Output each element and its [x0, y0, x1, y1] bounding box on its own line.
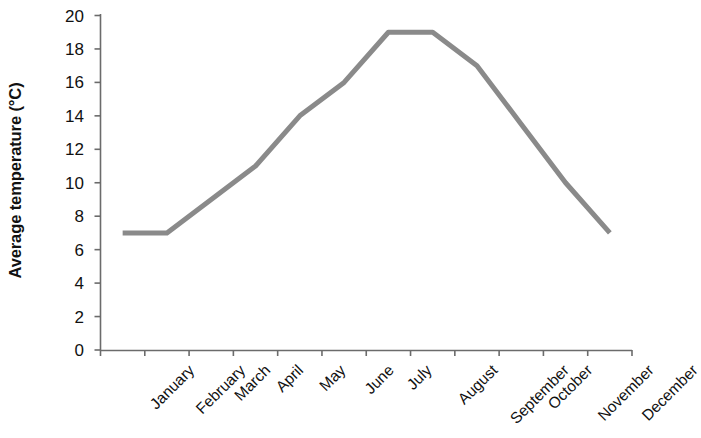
data-series-line: [123, 32, 610, 233]
axis-lines: [101, 14, 633, 351]
x-tick-label: December: [639, 362, 701, 424]
y-axis-ticks: [95, 16, 101, 351]
